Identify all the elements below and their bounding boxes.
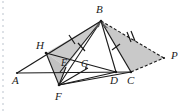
vertex-label-F: F <box>54 90 62 102</box>
vertex-label-C: C <box>127 74 135 86</box>
vertex-dot-F <box>58 84 61 87</box>
vertex-dot-B <box>100 20 103 23</box>
vertex-label-G: G <box>81 58 88 69</box>
vertex-label-D: D <box>109 74 118 86</box>
vertex-dot-D <box>115 71 117 73</box>
geometry-diagram: A B C D E F G H P <box>0 0 191 111</box>
vertex-dot-P <box>163 57 165 59</box>
vertex-label-E: E <box>60 57 67 68</box>
vertex-label-H: H <box>35 39 45 51</box>
vertex-label-A: A <box>11 74 19 86</box>
geometry-figure-container: A B C D E F G H P <box>0 0 191 111</box>
vertex-dot-H <box>45 52 48 55</box>
vertex-label-P: P <box>170 49 178 61</box>
vertex-label-B: B <box>96 3 103 15</box>
figure-background <box>0 0 191 111</box>
vertex-dot-C <box>130 71 132 73</box>
